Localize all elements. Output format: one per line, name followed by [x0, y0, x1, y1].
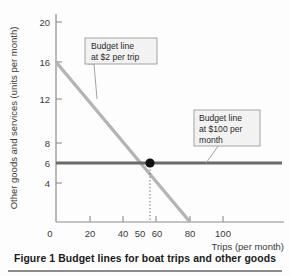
callout-price-leader-line	[88, 64, 97, 99]
y-tick-label-0: 0	[47, 228, 52, 239]
y-tick-label-16: 16	[39, 57, 50, 68]
y-tick-label-12: 12	[39, 94, 50, 105]
x-tick-label-20: 20	[85, 228, 96, 239]
y-tick-label-20: 20	[39, 17, 50, 28]
x-axis-ticks	[90, 216, 223, 222]
x-tick-label-60: 60	[152, 228, 163, 239]
callout-income-leader-line	[206, 146, 218, 163]
y-tick-label-6: 6	[45, 158, 50, 169]
x-tick-label-100: 100	[215, 228, 231, 239]
x-axis-title: Trips (per month)	[212, 241, 285, 252]
callout-income-line2: at $100 per	[199, 124, 243, 134]
callout-price-line2: at $2 per trip	[91, 52, 139, 62]
intersection-point-marker	[145, 158, 154, 167]
x-tick-label-50: 50	[135, 228, 146, 239]
budget-line-chart: 20 16 12 8 6 4 0 20 40 50 60 80 100 Othe…	[0, 0, 290, 276]
caption-divider	[8, 270, 282, 272]
y-axis-title: Other goods and services (units per mont…	[8, 27, 19, 210]
callout-income-line3: month	[199, 135, 223, 145]
callout-income-line1: Budget line	[199, 113, 242, 123]
figure-container: 20 16 12 8 6 4 0 20 40 50 60 80 100 Othe…	[0, 0, 290, 276]
x-tick-label-40: 40	[118, 228, 129, 239]
budget-line-price-series	[56, 62, 190, 222]
y-tick-label-8: 8	[45, 138, 50, 149]
y-axis-ticks	[56, 22, 62, 183]
callout-price-line1: Budget line	[91, 41, 134, 51]
x-tick-label-80: 80	[185, 228, 196, 239]
figure-caption: Figure 1 Budget lines for boat trips and…	[0, 253, 290, 264]
y-tick-label-4: 4	[45, 178, 50, 189]
